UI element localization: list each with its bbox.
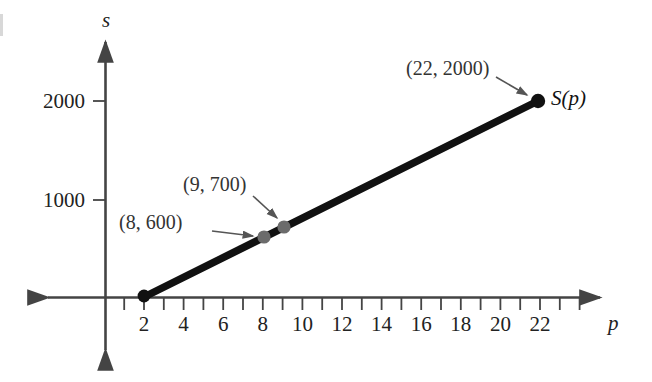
- point-22-2000: [531, 94, 545, 108]
- chart-canvas: [0, 0, 652, 382]
- x-axis-label: p: [608, 313, 619, 334]
- annotation-22-2000: (22, 2000): [406, 58, 489, 78]
- arrow-to-22-2000: [496, 77, 527, 95]
- annotation-9-700: (9, 700): [183, 174, 246, 194]
- annotation-arrows: [212, 77, 527, 236]
- x-tick-label-2: 2: [139, 314, 150, 335]
- x-axis-ticks: [124, 298, 579, 311]
- x-tick-label-4: 4: [178, 314, 189, 335]
- y-tick-label-1000: 1000: [40, 190, 85, 211]
- point-9-700: [277, 220, 290, 233]
- arrow-to-8-600: [212, 231, 253, 236]
- y-axis-ticks: [93, 101, 106, 200]
- x-tick-label-8: 8: [258, 314, 269, 335]
- x-tick-label-20: 20: [490, 314, 511, 335]
- curve-label-Sp: S(p): [551, 88, 586, 109]
- x-tick-label-22: 22: [530, 314, 551, 335]
- y-tick-label-2000: 2000: [40, 91, 85, 112]
- x-tick-label-14: 14: [371, 314, 392, 335]
- supply-line: [144, 101, 538, 297]
- annotation-8-600: (8, 600): [119, 212, 182, 232]
- arrow-to-9-700: [253, 196, 277, 218]
- point-origin: [138, 290, 151, 303]
- x-tick-label-18: 18: [450, 314, 471, 335]
- x-tick-label-6: 6: [218, 314, 229, 335]
- point-8-600: [257, 230, 270, 243]
- x-tick-label-16: 16: [411, 314, 432, 335]
- supply-function-chart: 2000 1000 2 4 6 8 10 12 14 16 18 20 22 s…: [0, 0, 652, 382]
- y-axis-label: s: [102, 10, 110, 31]
- x-tick-label-12: 12: [332, 314, 353, 335]
- x-tick-label-10: 10: [292, 314, 313, 335]
